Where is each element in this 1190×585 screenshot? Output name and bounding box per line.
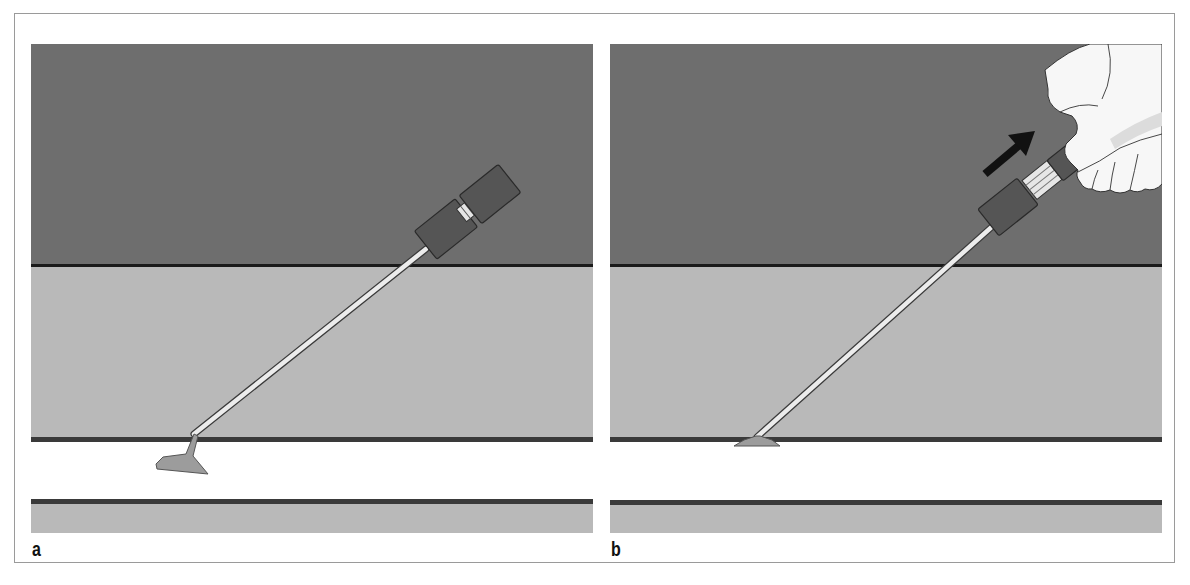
panel-label-b: b — [611, 538, 621, 561]
boundary-line-inner — [31, 437, 593, 442]
light-tissue-band-lower — [31, 504, 593, 533]
lumen-band — [610, 442, 1162, 500]
panel-a — [31, 44, 593, 533]
panel-b — [610, 44, 1162, 533]
light-tissue-band-lower — [610, 505, 1162, 533]
light-tissue-band — [31, 267, 593, 438]
boundary-line-lower — [610, 500, 1162, 505]
boundary-line-inner — [610, 437, 1162, 442]
panel-a-illustration — [31, 44, 593, 533]
panel-b-illustration — [610, 44, 1162, 533]
lumen-band — [31, 442, 593, 499]
light-tissue-band — [610, 267, 1162, 438]
boundary-line-top — [31, 264, 593, 267]
dark-tissue-band — [31, 44, 593, 266]
boundary-line-top — [610, 264, 1162, 267]
panel-label-a: a — [32, 538, 41, 561]
boundary-line-lower — [31, 499, 593, 504]
